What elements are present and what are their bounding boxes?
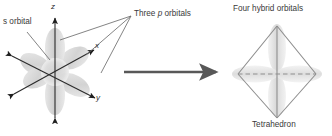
x-axis-label: x [95, 42, 99, 50]
s-orbital-label: s orbital [3, 18, 32, 26]
z-axis-label: z [51, 3, 55, 11]
tetrahedron-label: Tetrahedron [252, 121, 296, 129]
three-p-orbitals-label-pre: Three [134, 9, 158, 18]
y-axis-label: y [96, 94, 100, 102]
three-p-orbitals-label-post: orbitals [162, 9, 191, 18]
three-p-orbitals-label: Three p orbitals [134, 10, 191, 18]
figure-canvas: s orbital Three p orbitals z x y Four hy… [0, 0, 332, 136]
four-hybrid-orbitals-label: Four hybrid orbitals [233, 5, 303, 13]
right-tetrahedron-diagram [0, 0, 332, 136]
